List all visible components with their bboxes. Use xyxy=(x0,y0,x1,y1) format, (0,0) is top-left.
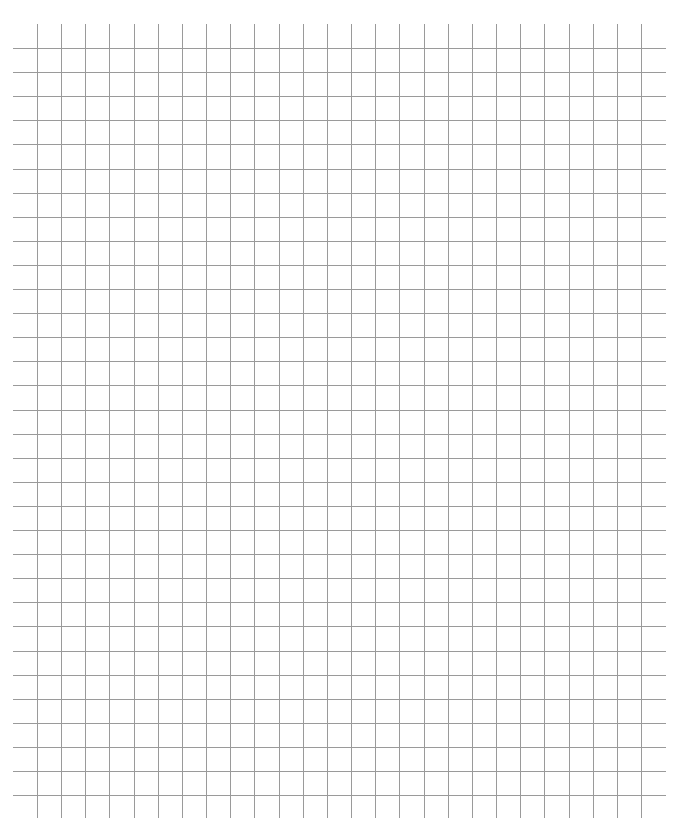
graph-paper-grid xyxy=(0,0,681,829)
horizontal-grid-lines xyxy=(13,49,666,796)
vertical-grid-lines xyxy=(38,24,642,818)
